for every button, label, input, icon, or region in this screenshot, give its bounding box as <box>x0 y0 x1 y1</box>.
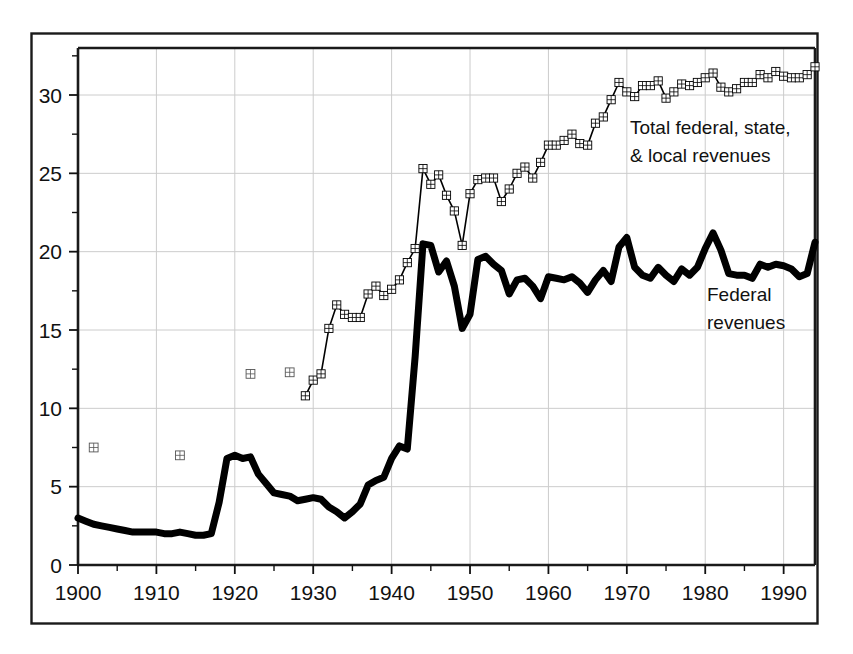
data-point-marker <box>787 74 795 82</box>
data-point-marker <box>356 313 364 321</box>
data-point-marker <box>552 141 560 149</box>
data-point-marker <box>419 165 427 173</box>
isolated-data-point <box>176 451 185 460</box>
isolated-data-point <box>285 368 294 377</box>
data-point-marker <box>301 392 309 400</box>
data-point-marker <box>466 190 474 198</box>
data-point-marker <box>458 241 466 249</box>
x-tick-label: 1980 <box>682 581 729 604</box>
data-point-marker <box>748 78 756 86</box>
data-point-marker <box>442 191 450 199</box>
y-tick-label: 0 <box>50 554 62 577</box>
data-point-marker <box>489 174 497 182</box>
data-point-marker <box>756 71 764 79</box>
x-tick-label: 1990 <box>760 581 807 604</box>
total-revenues-label-line2: & local revenues <box>630 145 770 166</box>
y-tick-label: 5 <box>50 475 62 498</box>
data-point-marker <box>693 78 701 86</box>
data-point-marker <box>717 83 725 91</box>
data-point-marker <box>733 85 741 93</box>
data-point-marker <box>450 207 458 215</box>
x-tick-label: 1960 <box>525 581 572 604</box>
data-point-marker <box>662 94 670 102</box>
y-tick-label: 15 <box>39 319 62 342</box>
data-point-marker <box>380 291 388 299</box>
data-point-marker <box>317 370 325 378</box>
data-point-marker <box>576 139 584 147</box>
data-point-marker <box>670 88 678 96</box>
data-point-marker <box>474 176 482 184</box>
x-tick-label: 1950 <box>447 581 494 604</box>
x-tick-label: 1970 <box>603 581 650 604</box>
x-tick-label: 1930 <box>290 581 337 604</box>
x-tick-label: 1940 <box>368 581 415 604</box>
data-point-marker <box>521 163 529 171</box>
data-point-marker <box>780 72 788 80</box>
data-point-marker <box>615 78 623 86</box>
data-point-marker <box>482 174 490 182</box>
data-point-marker <box>333 301 341 309</box>
data-point-marker <box>309 376 317 384</box>
y-tick-label: 20 <box>39 240 62 263</box>
y-tick-label: 10 <box>39 397 62 420</box>
data-point-marker <box>435 171 443 179</box>
data-point-marker <box>340 310 348 318</box>
data-point-marker <box>638 82 646 90</box>
data-point-marker <box>513 169 521 177</box>
x-tick-label: 1920 <box>211 581 258 604</box>
data-point-marker <box>372 282 380 290</box>
data-point-marker <box>811 63 819 71</box>
data-point-marker <box>646 82 654 90</box>
data-point-marker <box>403 259 411 267</box>
data-point-marker <box>395 276 403 284</box>
data-point-marker <box>701 74 709 82</box>
data-point-marker <box>709 69 717 77</box>
isolated-data-point <box>89 443 98 452</box>
data-point-marker <box>623 88 631 96</box>
isolated-data-point <box>246 369 255 378</box>
data-point-marker <box>388 285 396 293</box>
data-point-marker <box>584 141 592 149</box>
data-point-marker <box>427 180 435 188</box>
x-tick-label: 1900 <box>55 581 102 604</box>
data-point-marker <box>544 141 552 149</box>
total-revenues-label-line1: Total federal, state, <box>630 117 791 138</box>
data-point-marker <box>599 113 607 121</box>
data-point-marker <box>772 67 780 75</box>
data-point-marker <box>325 324 333 332</box>
data-point-marker <box>803 71 811 79</box>
data-point-marker <box>631 92 639 100</box>
revenue-line-chart: 1900191019201930194019501960197019801990… <box>0 0 853 654</box>
data-point-marker <box>536 158 544 166</box>
federal-revenues-label-line1: Federal <box>707 284 771 305</box>
data-point-marker <box>529 174 537 182</box>
data-point-marker <box>685 82 693 90</box>
y-tick-label: 30 <box>39 84 62 107</box>
data-point-marker <box>654 77 662 85</box>
data-point-marker <box>568 130 576 138</box>
y-tick-label: 25 <box>39 162 62 185</box>
data-point-marker <box>607 96 615 104</box>
federal-revenues-label-line2: revenues <box>707 312 785 333</box>
data-point-marker <box>591 119 599 127</box>
data-point-marker <box>348 313 356 321</box>
data-point-marker <box>678 80 686 88</box>
data-point-marker <box>740 78 748 86</box>
x-tick-label: 1910 <box>133 581 180 604</box>
data-point-marker <box>505 185 513 193</box>
data-point-marker <box>411 244 419 252</box>
data-point-marker <box>725 88 733 96</box>
chart-figure: 1900191019201930194019501960197019801990… <box>0 0 853 654</box>
data-point-marker <box>795 74 803 82</box>
data-point-marker <box>497 197 505 205</box>
data-point-marker <box>560 136 568 144</box>
data-point-marker <box>764 74 772 82</box>
data-point-marker <box>364 290 372 298</box>
